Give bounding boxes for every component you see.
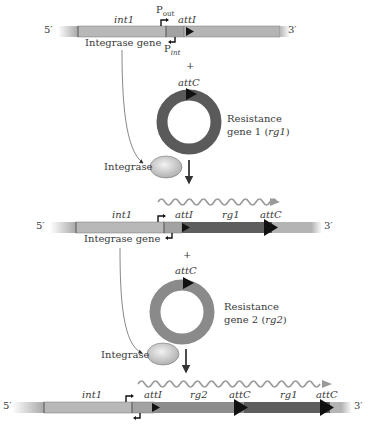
atti-label-1: attI xyxy=(178,14,196,25)
pint-label: Pint xyxy=(164,43,180,57)
int1-label-2: int1 xyxy=(112,209,132,220)
integrase-protein-1 xyxy=(150,156,182,178)
transcript-1 xyxy=(158,199,277,205)
pout-label: Pout xyxy=(156,4,174,18)
rg2-label-3: rg2 xyxy=(190,389,208,400)
attc-label-3a: attC xyxy=(229,389,251,400)
three-prime-label-2: 3′ xyxy=(324,220,333,231)
attc-circle-label-1: attC xyxy=(178,77,200,88)
attc-label-3b: attC xyxy=(316,389,338,400)
atti-label-3: attI xyxy=(144,389,162,400)
circle2-name-line1: Resistance xyxy=(224,301,279,312)
integrase-protein-2 xyxy=(147,343,179,365)
rg1-label-3: rg1 xyxy=(280,389,298,400)
resistance-cassette-1 xyxy=(162,88,216,149)
atti-label-2: attI xyxy=(175,209,193,220)
attc-circle-label-2: attC xyxy=(175,265,197,276)
three-prime-label-3: 3′ xyxy=(354,400,363,411)
integrase-gene-label-2: Integrase gene xyxy=(84,233,160,244)
five-prime-label-2: 5′ xyxy=(36,220,45,231)
three-prime-label-1: 3′ xyxy=(288,24,297,35)
circle1-name-line2: gene 1 (rg1) xyxy=(227,126,290,137)
stage3-dna xyxy=(12,394,352,420)
int1-label-1: int1 xyxy=(114,14,134,25)
plus-2: + xyxy=(183,249,191,260)
expression-arrow-1 xyxy=(122,50,143,163)
circle1-name-line1: Resistance xyxy=(227,113,282,124)
integrase-label-1: Integrase xyxy=(104,161,153,172)
integrase-label-2: Integrase xyxy=(101,349,150,360)
attc-label-2: attC xyxy=(260,209,282,220)
int1-label-3: int1 xyxy=(82,389,102,400)
integrase-gene-label-1: Integrase gene xyxy=(85,37,161,48)
expression-arrow-2 xyxy=(120,248,142,353)
plus-1: + xyxy=(186,60,194,71)
five-prime-label-3: 5′ xyxy=(3,400,12,411)
resistance-cassette-2 xyxy=(155,277,209,339)
circle2-name-line2: gene 2 (rg2) xyxy=(224,314,287,325)
five-prime-label-1: 5′ xyxy=(44,24,53,35)
rg1-label-2: rg1 xyxy=(222,209,240,220)
transcript-2 xyxy=(138,381,320,387)
